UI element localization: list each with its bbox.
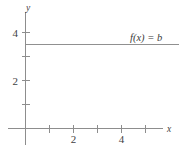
plot-canvas: 2 4 2 4 x y f(x) = b <box>0 0 179 150</box>
x-axis-label: x <box>166 124 172 134</box>
y-axis-label: y <box>25 3 31 13</box>
y-tick-label-4: 4 <box>13 27 19 39</box>
axis-name-group: x y <box>25 3 172 134</box>
function-label-group: f(x) = b <box>130 32 162 44</box>
function-equation-label: f(x) = b <box>130 32 162 44</box>
graph-figure: 2 4 2 4 x y f(x) = b <box>0 0 179 150</box>
y-tick-label-2: 2 <box>13 75 19 87</box>
x-tick-label-4: 4 <box>119 133 125 145</box>
x-tick-label-2: 2 <box>71 133 77 145</box>
